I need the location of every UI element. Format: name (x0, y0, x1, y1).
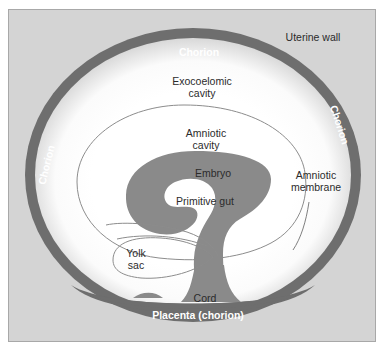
embryo-diagram-svg (9, 10, 376, 342)
figure-root: Uterine wall Chorion Chorion Chorion Exo… (0, 0, 386, 352)
diagram-panel: Uterine wall Chorion Chorion Chorion Exo… (8, 9, 376, 342)
